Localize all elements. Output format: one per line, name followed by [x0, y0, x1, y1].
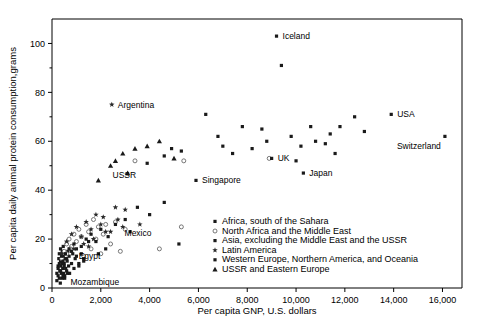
data-point — [91, 218, 95, 222]
data-point — [179, 225, 183, 229]
data-point — [180, 149, 183, 152]
data-point — [114, 223, 117, 226]
data-point — [58, 262, 61, 265]
data-point — [314, 140, 317, 143]
data-point — [329, 132, 332, 135]
data-point — [353, 115, 356, 118]
data-point — [64, 252, 67, 255]
legend-marker — [213, 239, 216, 242]
legend-marker — [213, 220, 216, 223]
data-point — [299, 145, 302, 148]
data-point — [265, 140, 268, 143]
data-point — [163, 154, 166, 157]
data-point — [55, 272, 58, 275]
x-tick-label: 8,000 — [236, 295, 259, 305]
data-point — [194, 179, 197, 182]
data-point — [132, 146, 137, 151]
data-point — [77, 262, 80, 265]
data-point — [63, 264, 66, 267]
y-tick-label: 20 — [35, 234, 45, 244]
data-point — [338, 125, 341, 128]
data-point — [100, 214, 106, 219]
data-point — [148, 213, 151, 216]
legend-marker — [213, 229, 217, 233]
data-point — [113, 158, 118, 163]
point-label: Egypt — [79, 251, 101, 261]
data-point — [170, 147, 173, 150]
data-point — [85, 237, 88, 240]
data-point — [59, 269, 62, 272]
data-point — [66, 272, 69, 275]
data-point — [171, 156, 176, 161]
x-tick-label: 16,000 — [429, 295, 457, 305]
point-label: USA — [397, 109, 415, 119]
data-point — [270, 157, 273, 160]
data-point — [163, 201, 166, 204]
legend-marker — [212, 267, 217, 272]
legend-marker — [213, 258, 216, 261]
data-point — [118, 249, 122, 253]
legend-label: Western Europe, Northern America, and Oc… — [222, 254, 418, 264]
point-label: Japan — [309, 168, 332, 178]
data-point — [290, 135, 293, 138]
data-point — [122, 207, 128, 212]
data-point — [89, 233, 92, 236]
data-point — [109, 242, 113, 246]
data-point — [231, 152, 234, 155]
data-point — [70, 262, 73, 265]
data-point — [108, 229, 114, 234]
data-point — [363, 130, 366, 133]
data-point — [113, 204, 119, 209]
x-tick-label: 4,000 — [138, 295, 161, 305]
data-point — [96, 178, 101, 183]
data-point — [221, 145, 224, 148]
data-point — [333, 152, 336, 155]
scatter-plot: 020406080100 02,0004,0006,0008,00010,000… — [0, 0, 477, 331]
x-tick-label: 14,000 — [380, 295, 408, 305]
x-tick-label: 12,000 — [331, 295, 359, 305]
data-point — [124, 218, 127, 221]
data-point — [280, 64, 283, 67]
y-axis-title: Per capita daily animal protein consumpt… — [7, 47, 18, 260]
data-point — [104, 222, 108, 226]
data-point — [390, 113, 393, 116]
data-point — [108, 163, 113, 168]
point-label: UK — [278, 153, 290, 163]
chart-figure: 020406080100 02,0004,0006,0008,00010,000… — [0, 0, 477, 331]
data-point — [182, 159, 186, 163]
point-label: Singapore — [202, 175, 241, 185]
data-point — [146, 162, 149, 165]
data-point — [157, 247, 161, 251]
y-tick-label: 60 — [35, 136, 45, 146]
chart-legend: Africa, south of the SaharaNorth Africa … — [212, 216, 418, 274]
data-point — [177, 242, 180, 245]
x-tick-label: 2,000 — [90, 295, 113, 305]
data-point — [93, 212, 99, 217]
data-point — [72, 267, 75, 270]
point-label: USSR — [113, 170, 137, 180]
data-point — [136, 206, 139, 209]
data-point — [104, 247, 107, 250]
data-point — [294, 159, 297, 162]
legend-label: USSR and Eastern Europe — [222, 264, 330, 274]
data-point — [309, 125, 312, 128]
data-point — [443, 135, 446, 138]
point-label: Mozambique — [71, 277, 120, 287]
data-point — [67, 237, 71, 241]
data-point — [145, 144, 150, 149]
data-point — [302, 171, 305, 174]
y-tick-label: 40 — [35, 185, 45, 195]
data-point — [72, 242, 75, 245]
data-point — [62, 245, 65, 248]
x-tick-label: 6,000 — [187, 295, 210, 305]
data-point — [157, 139, 162, 144]
data-point — [133, 159, 137, 163]
data-point — [107, 235, 110, 238]
x-tick-label: 10,000 — [282, 295, 310, 305]
data-point — [275, 35, 278, 38]
data-point — [324, 142, 327, 145]
data-point — [204, 113, 207, 116]
data-point — [241, 125, 244, 128]
data-point — [109, 102, 115, 107]
legend-label: Asia, excluding the Middle East and the … — [222, 235, 408, 245]
